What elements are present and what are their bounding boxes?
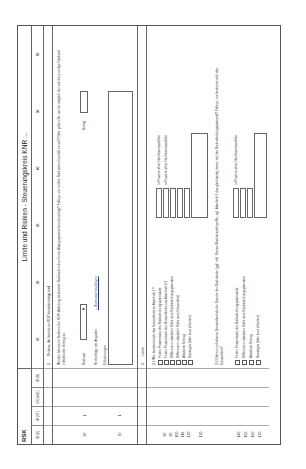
checkbox[interactable] bbox=[235, 360, 240, 365]
row-number: 120 bbox=[187, 425, 191, 444]
row-sub-number: 1 bbox=[118, 406, 122, 425]
betrag-input[interactable] bbox=[80, 91, 88, 113]
option-3-1-1[interactable]: Fester Prozentsatz des Risikodeckungspot… bbox=[158, 288, 163, 365]
col-60: 60 bbox=[32, 26, 43, 83]
form-page: RSK Limite und Risiken - Steuerungskreis… bbox=[17, 25, 281, 445]
id-e-header: ID (E) bbox=[32, 425, 43, 444]
checkbox[interactable] bbox=[158, 360, 163, 365]
col-20: 20 bbox=[32, 254, 43, 311]
sonstiges-textarea-3-2[interactable] bbox=[254, 133, 267, 218]
row-number: 70 bbox=[118, 425, 122, 444]
row-sub-number: 1 bbox=[83, 406, 87, 425]
percent-hint: in Prozent ohne Nachkommastellen bbox=[164, 135, 168, 185]
row-number: 130 bbox=[199, 425, 203, 444]
id-uue-header: ID (UUE) bbox=[32, 387, 43, 406]
percent-hint: in Prozent ohne Nachkommastellen bbox=[157, 135, 161, 185]
checkbox[interactable] bbox=[164, 360, 169, 365]
column-numbers: 10 20 30 40 50 60 bbox=[32, 26, 43, 368]
sonstiges-textarea-3-1[interactable] bbox=[191, 133, 208, 218]
col-50: 50 bbox=[32, 83, 43, 140]
option-3-2-1[interactable]: Fester Prozentsatz des Risikodeckungspot… bbox=[235, 288, 240, 365]
checkbox[interactable] bbox=[242, 360, 247, 365]
amount-input-3-2-3[interactable] bbox=[247, 188, 253, 218]
row-number: 170 bbox=[258, 425, 262, 444]
row-number: 110 bbox=[181, 425, 185, 444]
option-3-1-6[interactable]: Sonstiges (bitte kurz erläutern) bbox=[188, 315, 193, 365]
checkbox[interactable] bbox=[188, 360, 193, 365]
id-vt-header: ID (VT) bbox=[32, 406, 43, 425]
checkbox[interactable] bbox=[170, 360, 175, 365]
erlaeuterungen-label: Erläuterungen bbox=[103, 345, 107, 365]
section-2-header: 2. Risiken, die bereits im RDP berücksic… bbox=[44, 26, 53, 444]
rsk-label: RSK bbox=[18, 368, 31, 444]
checkbox[interactable] bbox=[176, 360, 181, 365]
option-3-1-4[interactable]: Differenz in absoluter Höhe zum Gesamtli… bbox=[176, 295, 181, 365]
id-r-header: ID (R) bbox=[32, 368, 43, 387]
option-3-2-2[interactable]: Differenz in absoluter Höhe zum Risikode… bbox=[242, 277, 247, 365]
page-title: Limite und Risiken - Steuerungskreis KNR… bbox=[18, 26, 31, 368]
option-3-1-3[interactable]: Differenz in absoluter Höhe zum Risikode… bbox=[170, 277, 175, 365]
checkbox[interactable] bbox=[249, 360, 254, 365]
row-number: 140 bbox=[237, 425, 241, 444]
amount-input-3-1-3[interactable] bbox=[170, 188, 176, 218]
erlaeuterungen-textarea[interactable] bbox=[108, 91, 133, 365]
option-3-2-3[interactable]: Absoluter Betrag bbox=[249, 334, 254, 365]
section-3-number: 3. bbox=[141, 357, 145, 365]
section-3-body: 80 90 100 110 120 130 140 150 160 170 3.… bbox=[147, 26, 269, 444]
section-2-body: 60 1 70 1 Wurden bereits im Rahmen der R… bbox=[53, 26, 138, 444]
add-record-link[interactable]: + Datensatz hinzufügen bbox=[94, 276, 98, 310]
section-2-intro: Wurden bereits im Rahmen der RDP-Ableitu… bbox=[57, 35, 66, 365]
betrag-label: Betrag bbox=[82, 121, 86, 130]
column-header-row: ID (E) ID (VT) ID (UUE) ID (R) 10 20 30 … bbox=[32, 26, 44, 444]
risikoart-label: Risikoart bbox=[82, 353, 86, 365]
row-number: 100 bbox=[175, 425, 179, 444]
question-3-1: 3.1 Wie bestimmt sich das Gesamtlimit im… bbox=[152, 288, 156, 365]
option-3-1-2[interactable]: Fester Prozentsatz des Gesamtlimits aus … bbox=[164, 281, 169, 365]
percent-input-3-1-1[interactable] bbox=[156, 188, 162, 218]
row-number: 60 bbox=[83, 425, 87, 444]
amount-input-3-1-4[interactable] bbox=[177, 188, 183, 218]
amount-input-3-1-5[interactable] bbox=[184, 188, 190, 218]
header-row: RSK Limite und Risiken - Steuerungskreis… bbox=[18, 26, 32, 444]
section-3-title: Limite bbox=[141, 347, 145, 356]
row-number: 80 bbox=[163, 425, 167, 444]
risikoart-dropdown[interactable]: ▼ bbox=[80, 304, 87, 340]
checkbox[interactable] bbox=[256, 360, 261, 365]
row-number: 160 bbox=[251, 425, 255, 444]
row-number: 90 bbox=[169, 425, 173, 444]
chevron-down-icon: ▼ bbox=[81, 307, 86, 311]
col-30: 30 bbox=[32, 197, 43, 254]
col-40: 40 bbox=[32, 140, 43, 197]
option-3-1-5[interactable]: Absoluter Betrag bbox=[182, 334, 187, 365]
row-number: 150 bbox=[244, 425, 248, 444]
question-3-2: 3.2 Gibt es ein höheres Gesamtlimit als … bbox=[215, 65, 224, 365]
section-3-header: 3. Limite bbox=[138, 26, 147, 444]
option-3-2-4[interactable]: Sonstiges (bitte kurz erläutern) bbox=[256, 315, 261, 365]
section-2-number: 2. bbox=[47, 357, 51, 365]
percent-input-3-2-1[interactable] bbox=[233, 188, 239, 218]
col-10: 10 bbox=[32, 311, 43, 368]
percent-input-3-1-2[interactable] bbox=[163, 188, 169, 218]
reihenfolge-label: Reihenfolge der Angaben bbox=[94, 329, 98, 365]
checkbox[interactable] bbox=[182, 360, 187, 365]
amount-input-3-2-2[interactable] bbox=[240, 188, 246, 218]
section-2-title: Risiken, die bereits im RDP berücksichti… bbox=[47, 286, 51, 356]
percent-hint: in Prozent ohne Nachkommastellen bbox=[234, 135, 238, 185]
